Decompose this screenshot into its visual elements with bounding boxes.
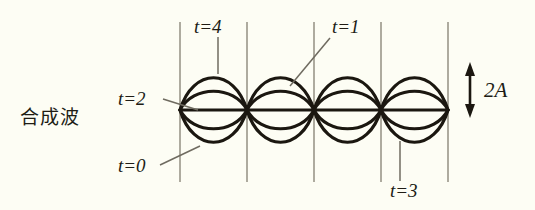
standing-wave-figure: 2A 合成波 t=4 t=1 t=2 t=0 t=3 bbox=[0, 0, 535, 210]
curve-label-t2: t=2 bbox=[118, 88, 146, 109]
curve-label-t1: t=1 bbox=[332, 16, 360, 37]
curve-label-t4: t=4 bbox=[194, 16, 222, 37]
amplitude-label: 2A bbox=[484, 78, 508, 102]
curve-label-t0: t=0 bbox=[118, 155, 146, 176]
curve-label-t3: t=3 bbox=[390, 180, 418, 201]
figure-background bbox=[0, 0, 535, 210]
composite-wave-title: 合成波 bbox=[20, 106, 80, 128]
